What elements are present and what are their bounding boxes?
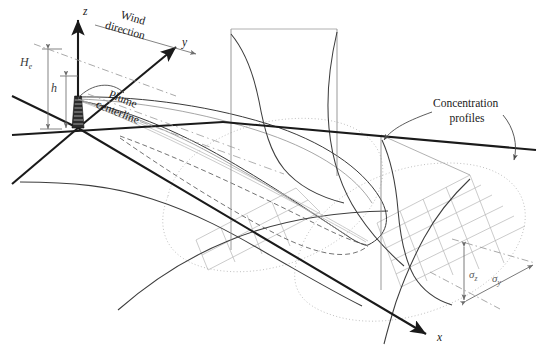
far-ground-grid (377, 175, 525, 287)
z-axis-label: z (82, 5, 88, 17)
ground-left-edge (12, 96, 78, 184)
sigma-y-label: σy (492, 272, 501, 287)
x-axis-label: x (436, 331, 443, 343)
sigma-y-dimension: σy (466, 265, 533, 301)
ground-level-gaussian-curves (20, 182, 388, 310)
plume-diagram-root: σz σy x (0, 0, 549, 359)
y-axis-label: y (181, 36, 188, 49)
plume-centerline-label: Plume centerline (95, 85, 147, 126)
wind-direction-annotation: Wind direction (95, 5, 196, 54)
concentration-profiles-label: Concentration profiles (433, 97, 501, 125)
concentration-profiles-annotation: Concentration profiles (384, 97, 516, 160)
plume-footprint-ellipses (163, 118, 525, 321)
plume-centerline-annotation: Plume centerline (95, 85, 147, 126)
plume-diagram-svg: σz σy x (0, 0, 549, 359)
x-axis: x (78, 128, 443, 343)
effective-height-label: He (19, 55, 33, 71)
sigma-z-label: σz (469, 268, 477, 283)
stack-height-label: h (51, 81, 57, 95)
wind-direction-label: Wind direction (104, 5, 151, 41)
near-ground-grid (196, 188, 320, 270)
